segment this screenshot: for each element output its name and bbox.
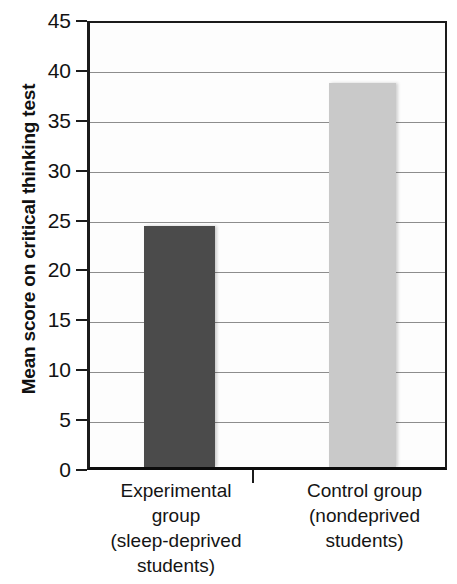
y-axis-tick-label: 30 bbox=[21, 160, 71, 181]
plot-area bbox=[87, 21, 447, 470]
y-axis-tick-label: 25 bbox=[21, 210, 71, 231]
y-axis-tick-label: 10 bbox=[21, 359, 71, 380]
y-axis-tick bbox=[76, 469, 87, 471]
y-axis-tick-label: 45 bbox=[21, 10, 71, 31]
y-axis-tick bbox=[76, 369, 87, 371]
y-axis-tick bbox=[76, 170, 87, 172]
y-axis-tick-label: 0 bbox=[21, 459, 71, 480]
y-axis-tick-label: 5 bbox=[21, 409, 71, 430]
category-label-line: students) bbox=[272, 528, 457, 553]
category-label-line: students) bbox=[66, 553, 286, 578]
y-axis-tick bbox=[76, 20, 87, 22]
y-axis-tick bbox=[76, 269, 87, 271]
category-label-experimental: Experimentalgroup(sleep-deprivedstudents… bbox=[66, 478, 286, 578]
y-axis-tick bbox=[76, 70, 87, 72]
y-axis-title: Mean score on critical thinking test bbox=[18, 29, 40, 449]
y-axis-tick bbox=[76, 220, 87, 222]
y-axis-tick-label: 20 bbox=[21, 259, 71, 280]
y-axis-tick bbox=[76, 319, 87, 321]
category-label-line: (sleep-deprived bbox=[66, 528, 286, 553]
category-label-line: Control group bbox=[272, 478, 457, 503]
y-axis-tick-label: 40 bbox=[21, 60, 71, 81]
y-axis-tick-label: 35 bbox=[21, 110, 71, 131]
y-axis-tick-label: 15 bbox=[21, 309, 71, 330]
category-label-line: (nondeprived bbox=[272, 503, 457, 528]
category-label-control: Control group(nondeprivedstudents) bbox=[272, 478, 457, 553]
y-axis-tick bbox=[76, 120, 87, 122]
bar-experimental bbox=[144, 226, 215, 467]
bar-chart: Mean score on critical thinking test 454… bbox=[0, 0, 457, 584]
category-label-line: Experimental bbox=[66, 478, 286, 503]
category-label-line: group bbox=[66, 503, 286, 528]
y-axis-tick bbox=[76, 419, 87, 421]
gridline bbox=[90, 72, 445, 73]
bar-control bbox=[329, 83, 396, 467]
